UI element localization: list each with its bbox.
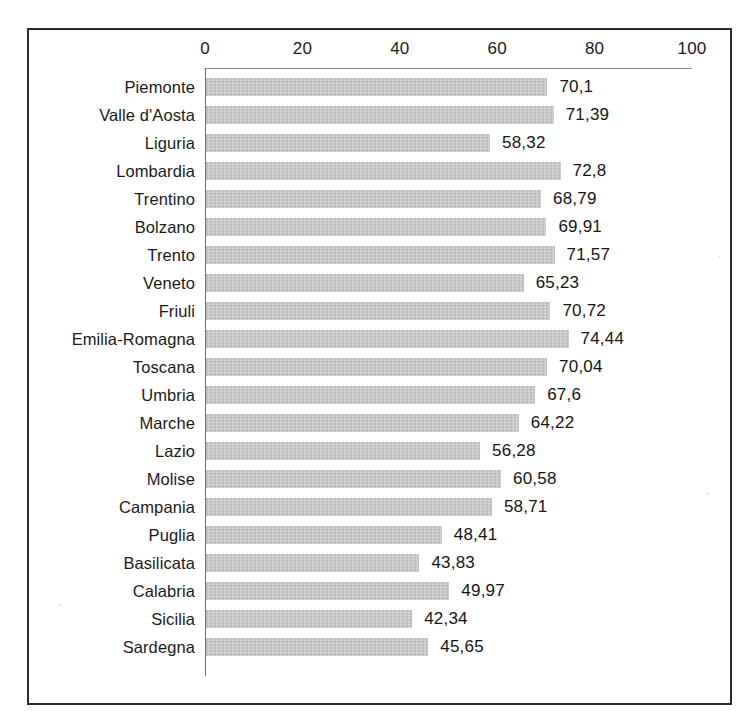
bar-and-value: 69,91	[206, 218, 602, 236]
bar-and-value: 58,32	[206, 134, 546, 152]
bar-and-value: 70,72	[206, 302, 606, 320]
bar	[206, 526, 442, 544]
bar-row: Friuli70,72	[205, 297, 692, 325]
category-label: Lazio	[155, 442, 195, 461]
bar-and-value: 72,8	[206, 162, 606, 180]
bar-and-value: 64,22	[206, 414, 574, 432]
bar-and-value: 68,79	[206, 190, 597, 208]
bar	[206, 358, 547, 376]
bar	[206, 470, 501, 488]
bar-value-label: 68,79	[553, 189, 597, 209]
category-label: Lombardia	[116, 162, 195, 181]
bar-value-label: 58,71	[504, 497, 548, 517]
bar-value-label: 74,44	[581, 329, 625, 349]
bar-value-label: 71,57	[567, 245, 611, 265]
bar	[206, 246, 555, 264]
x-axis-tick-label: 60	[488, 39, 507, 59]
x-axis-tick-label: 40	[390, 39, 409, 59]
bar	[206, 386, 535, 404]
bar	[206, 218, 546, 236]
bar-value-label: 43,83	[431, 553, 475, 573]
bar-row: Lombardia72,8	[205, 157, 692, 185]
category-label: Marche	[139, 414, 195, 433]
bar-value-label: 60,58	[513, 469, 557, 489]
bar	[206, 106, 554, 124]
bar-and-value: 45,65	[206, 638, 484, 656]
bar-and-value: 65,23	[206, 274, 579, 292]
bar-value-label: 42,34	[424, 609, 468, 629]
page-canvas: 020406080100 Piemonte70,1Valle d'Aosta71…	[0, 0, 755, 726]
bar-and-value: 74,44	[206, 330, 624, 348]
x-axis-tick-label: 100	[678, 39, 707, 59]
category-label: Piemonte	[124, 78, 195, 97]
bar-and-value: 67,6	[206, 386, 581, 404]
category-label: Liguria	[145, 134, 195, 153]
bar	[206, 442, 480, 460]
bar	[206, 610, 412, 628]
bar-row: Toscana70,04	[205, 353, 692, 381]
bar	[206, 274, 524, 292]
bar-and-value: 60,58	[206, 470, 557, 488]
bar-row: Calabria49,97	[205, 577, 692, 605]
bar-and-value: 71,57	[206, 246, 610, 264]
bar	[206, 302, 550, 320]
category-label: Trento	[147, 246, 195, 265]
category-label: Sicilia	[151, 610, 195, 629]
bar-value-label: 70,1	[559, 77, 593, 97]
bar	[206, 162, 561, 180]
bar-row: Trento71,57	[205, 241, 692, 269]
bar-row: Valle d'Aosta71,39	[205, 101, 692, 129]
bar-row: Trentino68,79	[205, 185, 692, 213]
bar	[206, 134, 490, 152]
plot-area: Piemonte70,1Valle d'Aosta71,39Liguria58,…	[205, 68, 692, 688]
category-label: Veneto	[143, 274, 195, 293]
bar-and-value: 43,83	[206, 554, 475, 572]
scan-speckle	[718, 256, 720, 258]
bar	[206, 414, 519, 432]
bar	[206, 78, 547, 96]
bar-value-label: 70,04	[559, 357, 603, 377]
bar	[206, 498, 492, 516]
bar-row: Bolzano69,91	[205, 213, 692, 241]
bar-and-value: 70,04	[206, 358, 603, 376]
category-label: Sardegna	[123, 638, 195, 657]
x-axis-top: 020406080100	[29, 30, 734, 64]
category-label: Toscana	[133, 358, 195, 377]
bar-row: Veneto65,23	[205, 269, 692, 297]
bar-row: Puglia48,41	[205, 521, 692, 549]
bar	[206, 190, 541, 208]
bar	[206, 554, 419, 572]
bar-and-value: 42,34	[206, 610, 468, 628]
bar-and-value: 70,1	[206, 78, 593, 96]
bar-and-value: 58,71	[206, 498, 547, 516]
bar-row: Molise60,58	[205, 465, 692, 493]
bar-value-label: 49,97	[461, 581, 505, 601]
category-label: Valle d'Aosta	[99, 106, 195, 125]
bar	[206, 330, 569, 348]
bar-and-value: 56,28	[206, 442, 536, 460]
bar-row: Sicilia42,34	[205, 605, 692, 633]
bar-value-label: 58,32	[502, 133, 546, 153]
bar-row-list: Piemonte70,1Valle d'Aosta71,39Liguria58,…	[205, 73, 692, 661]
x-axis-tick-label: 80	[585, 39, 604, 59]
bar-row: Sardegna45,65	[205, 633, 692, 661]
bar	[206, 638, 428, 656]
bar-value-label: 71,39	[566, 105, 610, 125]
bar-and-value: 48,41	[206, 526, 497, 544]
bar-row: Umbria67,6	[205, 381, 692, 409]
bar-row: Basilicata43,83	[205, 549, 692, 577]
category-label: Bolzano	[135, 218, 195, 237]
bar-value-label: 70,72	[562, 301, 606, 321]
category-label: Campania	[119, 498, 195, 517]
bar-value-label: 56,28	[492, 441, 536, 461]
x-axis-tick-label: 0	[200, 39, 210, 59]
bar-row: Liguria58,32	[205, 129, 692, 157]
bar-and-value: 71,39	[206, 106, 609, 124]
bar-row: Emilia-Romagna74,44	[205, 325, 692, 353]
bar-value-label: 64,22	[531, 413, 575, 433]
chart-figure-frame: 020406080100 Piemonte70,1Valle d'Aosta71…	[27, 28, 732, 705]
category-label: Umbria	[141, 386, 195, 405]
bar-and-value: 49,97	[206, 582, 505, 600]
bar-value-label: 72,8	[573, 161, 607, 181]
category-label: Emilia-Romagna	[72, 330, 195, 349]
